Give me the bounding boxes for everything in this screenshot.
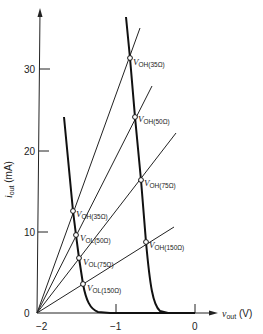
y-axis	[37, 12, 40, 313]
point-voh-35	[128, 56, 133, 61]
y-tick-label-30: 30	[24, 64, 36, 75]
characteristic-curves	[64, 17, 195, 313]
y-axis-title: iout (mA)	[3, 161, 15, 198]
label-vol-75: VOL(75Ω)	[83, 257, 114, 269]
x-tick-label-0: 0	[192, 321, 198, 332]
operating-points	[71, 56, 149, 287]
point-vol-150	[81, 282, 86, 287]
x-tick-label-neg2: −2	[36, 321, 48, 332]
x-axis-arrow-icon	[209, 311, 218, 316]
point-labels: VOH(35Ω) VOH(50Ω) VOH(75Ω) VOH(150Ω) VOH…	[76, 57, 184, 295]
label-voh-75: VOH(75Ω)	[144, 178, 176, 190]
x-axis-title: vout (V)	[222, 308, 252, 320]
y-axis-arrow-icon	[38, 8, 43, 17]
label-voh-150: VOH(150Ω)	[149, 240, 184, 252]
chart-canvas: VOH(35Ω) VOH(50Ω) VOH(75Ω) VOH(150Ω) VOH…	[0, 0, 263, 334]
axes	[37, 8, 218, 316]
label-vol-150: VOL(150Ω)	[87, 283, 121, 295]
load-line-35	[37, 28, 140, 313]
x-tick-label-neg1: −1	[110, 321, 122, 332]
load-line-75	[37, 133, 176, 313]
y-tick-label-10: 10	[24, 227, 36, 238]
y-tick-label-0: 0	[24, 308, 30, 319]
y-tick-label-20: 20	[24, 146, 36, 157]
label-voh-50: VOH(50Ω)	[138, 114, 170, 126]
point-voh-150	[144, 240, 149, 245]
label-vol-50: VOL(50Ω)	[80, 233, 111, 245]
point-vol-35	[71, 209, 76, 214]
point-voh-50	[133, 115, 138, 120]
point-vol-75	[77, 256, 82, 261]
point-vol-50	[74, 233, 79, 238]
point-voh-75	[139, 178, 144, 183]
label-voh-35: VOH(35Ω)	[133, 57, 165, 69]
label-vol-35: VOH(35Ω)	[76, 209, 108, 221]
load-lines	[37, 28, 176, 313]
